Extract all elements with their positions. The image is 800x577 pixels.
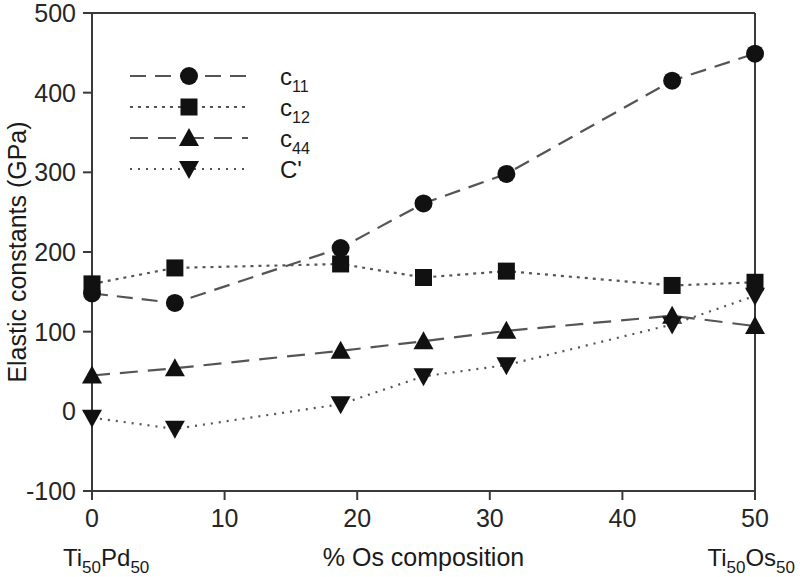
left-composition-label: Ti50Pd50 bbox=[63, 544, 149, 577]
marker-c11 bbox=[332, 239, 350, 257]
marker-c11 bbox=[497, 165, 515, 183]
x-tick-label: 30 bbox=[476, 504, 504, 532]
y-tick-label: 0 bbox=[62, 397, 76, 425]
x-tick-label: 0 bbox=[85, 504, 99, 532]
y-tick-label: 200 bbox=[34, 238, 76, 266]
legend-marker-c12 bbox=[181, 99, 198, 116]
marker-c12 bbox=[84, 275, 101, 292]
elastic-constants-chart: 5004003002001000-10001020304050% Os comp… bbox=[0, 0, 800, 577]
x-axis-title: % Os composition bbox=[323, 543, 524, 571]
x-tick-label: 50 bbox=[741, 504, 769, 532]
y-tick-label: -100 bbox=[26, 477, 76, 505]
y-tick-label: 300 bbox=[34, 158, 76, 186]
y-tick-label: 100 bbox=[34, 318, 76, 346]
marker-c12 bbox=[415, 269, 432, 286]
y-tick-label: 500 bbox=[34, 0, 76, 27]
marker-Cprime bbox=[82, 410, 102, 428]
marker-Cprime bbox=[165, 421, 185, 439]
plot-area: 5004003002001000-10001020304050% Os comp… bbox=[0, 0, 800, 577]
legend-label-c12: c12 bbox=[280, 94, 310, 126]
y-tick-label: 400 bbox=[34, 79, 76, 107]
marker-c12 bbox=[166, 259, 183, 276]
marker-c11 bbox=[415, 194, 433, 212]
legend-label-Cprime: C' bbox=[280, 156, 302, 183]
marker-Cprime bbox=[496, 357, 516, 375]
marker-c12 bbox=[664, 277, 681, 294]
marker-c11 bbox=[663, 72, 681, 90]
series-line-Cprime bbox=[92, 296, 755, 429]
marker-Cprime bbox=[745, 288, 765, 306]
marker-c11 bbox=[746, 45, 764, 63]
x-tick-label: 40 bbox=[608, 504, 636, 532]
legend-label-c11: c11 bbox=[280, 63, 309, 95]
legend-label-c44: c44 bbox=[280, 125, 310, 157]
x-tick-label: 20 bbox=[343, 504, 371, 532]
right-composition-label: Ti50Os50 bbox=[707, 544, 795, 577]
series-line-c11 bbox=[92, 54, 755, 303]
y-axis-title: Elastic constants (GPa) bbox=[3, 121, 31, 382]
marker-c12 bbox=[332, 255, 349, 272]
x-tick-label: 10 bbox=[211, 504, 239, 532]
marker-c11 bbox=[166, 294, 184, 312]
marker-c12 bbox=[498, 263, 515, 280]
marker-Cprime bbox=[331, 396, 351, 414]
marker-Cprime bbox=[414, 368, 434, 386]
legend-marker-c11 bbox=[180, 67, 198, 85]
